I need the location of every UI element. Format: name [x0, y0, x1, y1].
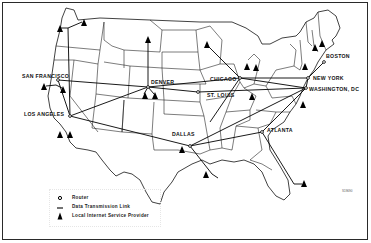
router-icon [57, 79, 60, 82]
router-icon [305, 87, 308, 90]
city-label: DALLAS [172, 131, 195, 137]
legend-label: Local Internet Service Provider [72, 213, 149, 218]
legend-item: Router [50, 194, 160, 202]
isp-markers [41, 19, 325, 187]
router-icon [56, 194, 64, 202]
legend-label: Router [72, 195, 89, 200]
isp-triangle-icon [142, 92, 148, 99]
isp-triangle-icon [145, 36, 151, 43]
map-legend: Router Data Transmission Link Local Inte… [49, 189, 161, 227]
isp-triangle-icon [319, 40, 325, 47]
link [68, 28, 70, 116]
city-label: BOSTON [326, 53, 350, 59]
city-label: WASHINGTON, DC [309, 86, 359, 92]
link [262, 88, 306, 132]
link-line-icon [56, 203, 64, 211]
isp-triangle-icon [41, 83, 47, 90]
isp-triangle-icon [301, 180, 307, 187]
isp-triangle-icon [312, 44, 318, 51]
link [46, 85, 56, 86]
link [206, 44, 240, 78]
city-label: ST. LOUIS [207, 92, 235, 98]
router-icon [197, 91, 200, 94]
figure-code: S19690 [342, 189, 352, 193]
isp-triangle-icon [56, 212, 64, 220]
link [148, 87, 198, 92]
router-icon [323, 61, 326, 64]
link [240, 78, 306, 88]
city-label: CHICAGO [210, 76, 237, 82]
router-icon [147, 86, 150, 89]
isp-triangle-icon [204, 41, 210, 48]
country-border [48, 8, 340, 204]
transmission-links [46, 22, 324, 184]
isp-triangle-icon [300, 101, 306, 108]
legend-item: Data Transmission Link [50, 203, 160, 211]
link [190, 132, 262, 146]
link [70, 87, 148, 116]
router-icon [189, 145, 192, 148]
city-label: NEW YORK [313, 75, 344, 81]
isp-triangle-icon [302, 63, 308, 70]
city-label: DENVER [151, 79, 174, 85]
isp-triangle-icon [249, 93, 255, 100]
isp-triangle-icon [179, 146, 185, 153]
us-outline [48, 8, 340, 204]
link [190, 146, 212, 174]
city-label: LOS ANGELES [24, 111, 64, 117]
legend-item: Local Internet Service Provider [50, 212, 160, 220]
link [68, 22, 82, 28]
router-icon [307, 77, 310, 80]
isp-triangle-icon [57, 131, 63, 138]
isp-triangle-icon [57, 25, 63, 32]
isp-triangle-icon [67, 131, 73, 138]
router-icon [261, 131, 264, 134]
isp-triangle-icon [203, 171, 209, 178]
city-label: SAN FRANCISCO [22, 73, 69, 79]
isp-triangle-icon [244, 63, 250, 70]
router-icon [69, 115, 72, 118]
city-label: ATLANTA [267, 127, 293, 133]
link [212, 174, 218, 178]
legend-label: Data Transmission Link [72, 204, 130, 209]
link [56, 85, 62, 88]
link [262, 132, 294, 184]
router-icon [239, 77, 242, 80]
